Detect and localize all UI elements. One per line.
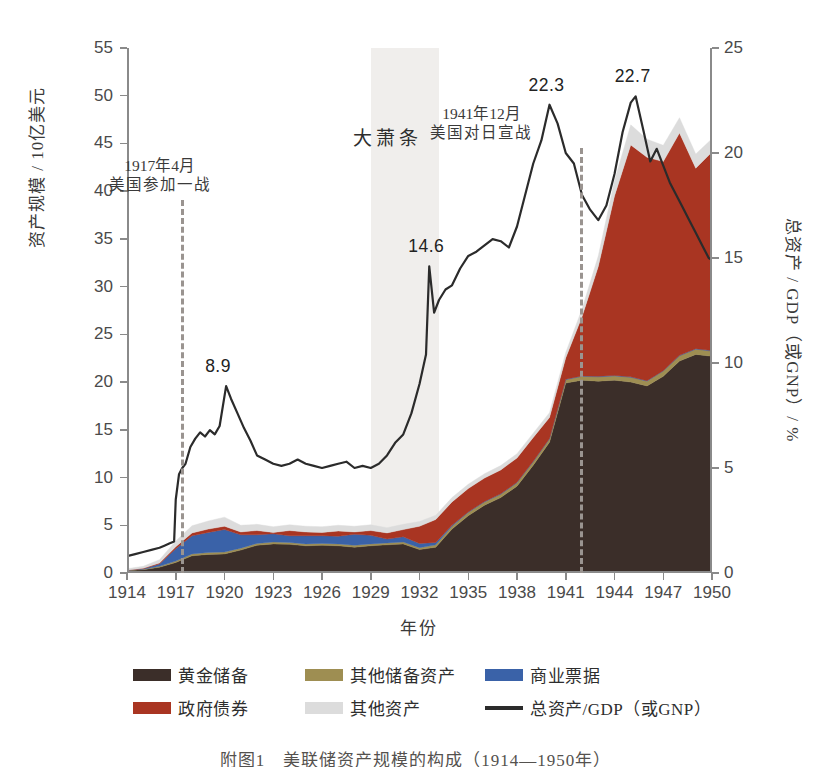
figure-container: 0510152025303540455055 0510152025 191419…: [0, 0, 831, 767]
x-axis-tick: [224, 573, 226, 580]
y-axis-left-tick: [120, 381, 127, 383]
legend-item[interactable]: 总资产/GDP（或GNP）: [485, 695, 711, 720]
y-axis-left-tick: [120, 429, 127, 431]
x-axis-tick: [663, 573, 665, 580]
y-axis-right-tick: [712, 362, 719, 364]
y-axis-left-title: 资产规模 / 10亿美元: [23, 87, 48, 248]
peak-label-14-6: 14.6: [408, 236, 444, 257]
x-axis-tick: [175, 573, 177, 580]
event-marker-ww1-label-line2: 美国参加一战: [109, 175, 211, 194]
y-axis-left-tick-label: 5: [67, 516, 113, 533]
event-marker-ww1-label-line1: 1917年4月: [109, 156, 211, 175]
y-axis-left-tick: [120, 95, 127, 97]
y-axis-left-tick-label: 55: [67, 39, 113, 56]
x-axis-tick: [565, 573, 567, 580]
x-axis-tick: [321, 573, 323, 580]
x-axis-tick: [273, 573, 275, 580]
legend-color-swatch: [485, 669, 523, 681]
y-axis-right-tick: [712, 572, 719, 574]
y-axis-right-line: [710, 48, 712, 573]
event-marker-ww2-label-line2: 美国对日宣战: [430, 123, 532, 142]
y-axis-right-tick: [712, 152, 719, 154]
y-axis-left-tick: [120, 238, 127, 240]
legend-row-2: 政府债券其他资产总资产/GDP（或GNP）: [133, 691, 733, 724]
y-axis-right-tick: [712, 257, 719, 259]
event-marker-ww2-line: [580, 148, 583, 573]
y-axis-right-tick-label: 5: [724, 459, 770, 476]
event-marker-ww2-label-line1: 1941年12月: [430, 104, 532, 123]
x-axis-tick: [516, 573, 518, 580]
y-axis-left-tick-label: 45: [67, 134, 113, 151]
y-axis-left-tick-label: 40: [67, 182, 113, 199]
chart-legend: 黄金储备其他储备资产商业票据 政府债券其他资产总资产/GDP（或GNP）: [133, 658, 733, 724]
legend-label: 黄金储备: [178, 662, 248, 687]
event-marker-ww1-line: [181, 200, 184, 573]
chart-plot-area: 0510152025303540455055 0510152025 191419…: [127, 48, 712, 573]
legend-item[interactable]: 商业票据: [485, 662, 600, 687]
great-depression-label: 大萧条: [353, 123, 422, 150]
legend-item[interactable]: 政府债券: [133, 695, 305, 720]
legend-label: 商业票据: [530, 662, 600, 687]
legend-color-swatch: [305, 669, 343, 681]
y-axis-right-tick-label: 0: [724, 564, 770, 581]
y-axis-right-tick: [712, 467, 719, 469]
legend-item[interactable]: 黄金储备: [133, 662, 305, 687]
y-axis-right-tick-label: 15: [724, 249, 770, 266]
legend-item[interactable]: 其他储备资产: [305, 662, 485, 687]
legend-label: 总资产/GDP（或GNP）: [530, 695, 711, 720]
x-axis-tick: [468, 573, 470, 580]
legend-item[interactable]: 其他资产: [305, 695, 485, 720]
y-axis-left-tick: [120, 477, 127, 479]
y-axis-right-tick-label: 20: [724, 144, 770, 161]
legend-label: 政府债券: [178, 695, 248, 720]
x-axis-tick: [370, 573, 372, 580]
legend-label: 其他储备资产: [350, 662, 455, 687]
y-axis-left-tick-label: 20: [67, 373, 113, 390]
y-axis-left-tick: [120, 525, 127, 527]
x-axis-tick: [711, 573, 713, 580]
x-axis-tick: [419, 573, 421, 580]
x-axis-title: 年份: [379, 614, 459, 639]
y-axis-left-tick: [120, 47, 127, 49]
legend-row-1: 黄金储备其他储备资产商业票据: [133, 658, 733, 691]
y-axis-left-line: [127, 48, 129, 573]
y-axis-right-title: 总资产 / GDP（或GNP）/ %: [782, 218, 807, 442]
y-axis-left-tick-label: 10: [67, 469, 113, 486]
y-axis-left-tick: [120, 334, 127, 336]
legend-color-swatch: [305, 702, 343, 714]
y-axis-right-tick-label: 25: [724, 39, 770, 56]
x-axis-tick-label: 1950: [682, 584, 742, 601]
y-axis-right-tick-label: 10: [724, 354, 770, 371]
y-axis-left-tick-label: 25: [67, 325, 113, 342]
y-axis-right-tick: [712, 47, 719, 49]
legend-line-swatch: [485, 706, 523, 710]
x-axis-tick: [614, 573, 616, 580]
peak-label-22-3: 22.3: [529, 75, 565, 96]
event-marker-ww1-label: 1917年4月美国参加一战: [109, 156, 211, 195]
y-axis-left-tick-label: 30: [67, 278, 113, 295]
y-axis-left-tick: [120, 286, 127, 288]
y-axis-left-tick-label: 50: [67, 87, 113, 104]
event-marker-ww2-label: 1941年12月美国对日宣战: [430, 104, 532, 143]
y-axis-left-tick-label: 15: [67, 421, 113, 438]
x-axis-tick: [126, 573, 128, 580]
y-axis-left-tick: [120, 143, 127, 145]
legend-color-swatch: [133, 669, 171, 681]
legend-label: 其他资产: [350, 695, 420, 720]
y-axis-left-tick-label: 0: [67, 564, 113, 581]
figure-caption: 附图1 美联储资产规模的构成（1914—1950年）: [0, 746, 831, 767]
y-axis-left-tick-label: 35: [67, 230, 113, 247]
legend-color-swatch: [133, 702, 171, 714]
peak-label-8-9: 8.9: [205, 356, 231, 377]
peak-label-22-7: 22.7: [615, 66, 651, 87]
